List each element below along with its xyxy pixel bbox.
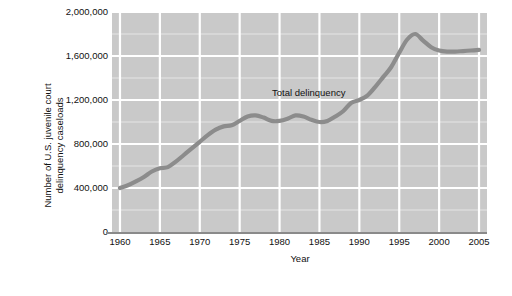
y-axis-tick-labels: 0400,000800,0001,200,0001,600,0002,000,0… [0, 12, 108, 232]
plot-area [112, 12, 487, 232]
x-axis-tick-labels: 1960196519701975198019851990199520002005 [0, 236, 512, 250]
plot-canvas [112, 12, 487, 232]
y-tick-label: 1,600,000 [4, 51, 108, 61]
y-tick-label: 400,000 [4, 183, 108, 193]
y-tick-label: 800,000 [4, 139, 108, 149]
gridlines-horizontal-minor [112, 34, 487, 210]
x-axis-title: Year [270, 253, 330, 264]
x-axis-line [106, 232, 487, 234]
y-tick-label: 1,200,000 [4, 95, 108, 105]
line-chart: Number of U.S. juvenile court delinquenc… [0, 0, 512, 296]
y-tick-label: 2,000,000 [4, 7, 108, 17]
gridlines-horizontal-major [112, 12, 487, 188]
x-tick-label: 2005 [449, 236, 509, 248]
series-annotation-total-delinquency: Total delinquency [272, 87, 345, 98]
